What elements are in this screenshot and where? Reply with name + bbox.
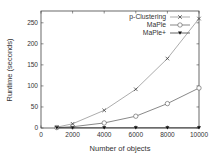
x-tick-label: 10000 <box>190 131 208 138</box>
x-tick-label: 4000 <box>97 131 112 138</box>
legend-item: p-Clustering <box>129 13 190 21</box>
legend-item: MaPle <box>147 21 190 28</box>
x-tick-label: 0 <box>39 131 43 138</box>
y-axis-label: Runtime (seconds) <box>5 38 14 101</box>
y-tick-label: 150 <box>27 61 38 68</box>
legend: p-ClusteringMaPleMaPle+ <box>129 13 190 36</box>
y-tick-label: 100 <box>27 82 38 89</box>
series-maple <box>55 86 202 130</box>
series-maple- <box>55 126 201 129</box>
x-tick-label: 6000 <box>129 131 144 138</box>
plot-frame <box>41 11 199 128</box>
y-tick-label: 250 <box>27 19 38 26</box>
legend-label: p-Clustering <box>129 13 166 21</box>
y-tick-label: 0 <box>34 124 38 131</box>
legend-label: MaPle+ <box>143 29 166 36</box>
series-p-clustering <box>55 17 201 129</box>
plot-axes: 0200040006000800010000050100150200250 <box>27 11 208 138</box>
legend-label: MaPle <box>147 21 166 28</box>
y-tick-label: 200 <box>27 40 38 47</box>
runtime-chart: 0200040006000800010000050100150200250 p-… <box>0 0 217 156</box>
plot-series <box>55 17 202 130</box>
x-tick-label: 8000 <box>160 131 175 138</box>
x-tick-label: 2000 <box>65 131 80 138</box>
x-axis-label: Number of objects <box>90 144 151 153</box>
y-tick-label: 50 <box>31 103 39 110</box>
legend-item: MaPle+ <box>143 29 190 36</box>
